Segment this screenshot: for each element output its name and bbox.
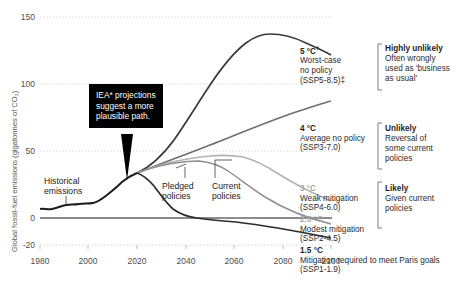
y-tick-neg20: -20 bbox=[23, 240, 36, 250]
x-axis-ticks bbox=[40, 245, 331, 249]
scenario-label-ssp585: 5 °C† Worst-case no policy (SSP5-8.5)‡ bbox=[300, 44, 345, 85]
likelihood-3-line-1: Given current bbox=[385, 194, 434, 204]
likelihood-heading-2: Unlikely bbox=[385, 124, 433, 134]
callout-line-1: IEA* projections bbox=[96, 90, 156, 100]
likelihood-likely: Likely Given current policies bbox=[385, 184, 434, 214]
y-tick-100: 100 bbox=[21, 79, 35, 89]
scenario-label-ssp119: 1.5 °C Mitigation required to meet Paris… bbox=[300, 246, 440, 275]
pledged-line-1: Pledged bbox=[162, 181, 194, 191]
chart-root: Global fossil-fuel emissions (gigatonnes… bbox=[0, 0, 467, 301]
likelihood-3-line-2: policies bbox=[385, 204, 434, 214]
scenario-temp-ssp585: 5 °C† bbox=[300, 44, 345, 56]
likelihood-unlikely: Unlikely Reversal of some current polici… bbox=[385, 124, 433, 164]
callout-line-3: plausible path. bbox=[96, 111, 150, 121]
x-tick-2060: 2060 bbox=[225, 256, 244, 266]
scenario-label-ssp460: 3 °C Weak mitigation (SSP4-6.0) bbox=[300, 184, 358, 213]
scenario-desc-ssp119: Mitigation required to meet Paris goals bbox=[300, 256, 440, 266]
scenario-code-ssp460: (SSP4-6.0) bbox=[300, 203, 358, 213]
y-tick-150: 150 bbox=[21, 12, 35, 22]
likelihood-2-line-2: some current bbox=[385, 144, 433, 154]
x-tick-2000: 2000 bbox=[79, 256, 98, 266]
scenario-code-ssp119: (SSP1-1.9) bbox=[300, 265, 440, 275]
x-tick-2040: 2040 bbox=[177, 256, 196, 266]
scenario-label-ssp370: 4 °C Average no policy (SSP3-7.0) bbox=[300, 124, 365, 153]
scenario-desc-2-ssp585: no policy bbox=[300, 66, 345, 76]
likelihood-brackets bbox=[378, 44, 382, 228]
y-tick-50: 50 bbox=[26, 146, 36, 156]
x-tick-2020: 2020 bbox=[128, 256, 147, 266]
likelihood-1-line-1: Often wrongly bbox=[385, 54, 450, 64]
scenario-desc-ssp370: Average no policy bbox=[300, 134, 365, 144]
likelihood-1-line-3: as usual' bbox=[385, 74, 450, 84]
scenario-temp-ssp245: 2.5 °C bbox=[300, 215, 364, 225]
iea-callout: IEA* projections suggest a more plausibl… bbox=[89, 84, 163, 128]
scenario-code-ssp370: (SSP3-7.0) bbox=[300, 143, 365, 153]
leader-pledged-arrow bbox=[176, 164, 186, 168]
scenario-code-ssp585: (SSP5-8.5)‡ bbox=[300, 76, 345, 86]
scenario-desc-ssp460: Weak mitigation bbox=[300, 194, 358, 204]
scenario-temp-ssp119: 1.5 °C bbox=[300, 246, 440, 256]
likelihood-highly-unlikely: Highly unlikely Often wrongly used as 'b… bbox=[385, 44, 450, 84]
gridlines bbox=[40, 17, 332, 245]
scenario-code-ssp245: (SSP2-4.5) bbox=[300, 234, 364, 244]
annotation-current: Current policies bbox=[212, 181, 241, 202]
y-tick-0: 0 bbox=[30, 213, 35, 223]
scenario-temp-ssp370: 4 °C bbox=[300, 124, 365, 134]
scenario-desc-1-ssp585: Worst-case bbox=[300, 56, 345, 66]
historical-line-2: emissions bbox=[44, 186, 82, 196]
likelihood-2-line-1: Reversal of bbox=[385, 134, 433, 144]
likelihood-heading-1: Highly unlikely bbox=[385, 44, 450, 54]
callout-tail bbox=[121, 134, 133, 180]
current-line-2: policies bbox=[212, 191, 241, 201]
scenario-desc-ssp245: Modest mitigation bbox=[300, 225, 364, 235]
scenario-label-ssp245: 2.5 °C Modest mitigation (SSP2-4.5) bbox=[300, 215, 364, 244]
scenario-temp-ssp460: 3 °C bbox=[300, 184, 358, 194]
pledged-line-2: policies bbox=[162, 191, 191, 201]
x-tick-2080: 2080 bbox=[274, 256, 293, 266]
callout-line-2: suggest a more bbox=[96, 101, 154, 111]
current-line-1: Current bbox=[212, 181, 241, 191]
x-tick-1980: 1980 bbox=[31, 256, 50, 266]
likelihood-1-line-2: used as 'business bbox=[385, 64, 450, 74]
annotation-historical: Historical emissions bbox=[44, 176, 82, 197]
annotation-pledged: Pledged policies bbox=[162, 181, 194, 202]
historical-line-1: Historical bbox=[44, 176, 79, 186]
likelihood-heading-3: Likely bbox=[385, 184, 434, 194]
likelihood-2-line-3: policies bbox=[385, 154, 433, 164]
